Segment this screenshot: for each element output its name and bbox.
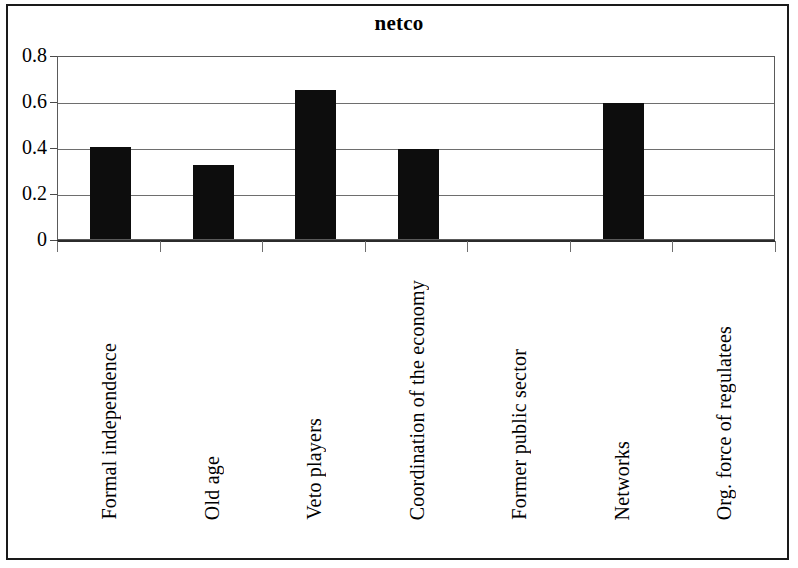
x-axis-category-label-text: Veto players xyxy=(303,418,325,520)
x-axis-tick-mark xyxy=(775,241,776,252)
x-axis-category-label: Networks xyxy=(570,258,673,520)
x-axis-tick-mark xyxy=(467,241,468,252)
x-axis-category-label-text: Formal independence xyxy=(98,343,120,520)
x-axis-category-label-text: Org. force of regulatees xyxy=(713,326,735,520)
x-axis-category-label-text: Networks xyxy=(611,441,633,520)
x-axis-category-label-text: Coordination of the economy xyxy=(406,280,428,520)
x-axis-category-label: Old age xyxy=(160,258,263,520)
x-axis-category-label: Former public sector xyxy=(467,258,570,520)
x-axis-category-label: Veto players xyxy=(262,258,365,520)
x-axis-category-label-text: Old age xyxy=(201,456,223,520)
x-axis-tick-mark xyxy=(365,241,366,252)
x-axis-tick-mark xyxy=(262,241,263,252)
x-axis-tick-mark xyxy=(57,241,58,252)
x-axis-tick-mark xyxy=(570,241,571,252)
x-axis-tick-mark xyxy=(672,241,673,252)
x-axis-category-label: Coordination of the economy xyxy=(365,258,468,520)
x-axis-category-label: Org. force of regulatees xyxy=(672,258,775,520)
x-axis-category-label: Formal independence xyxy=(57,258,160,520)
x-axis-category-label-text: Former public sector xyxy=(508,349,530,520)
x-axis-tick-mark xyxy=(160,241,161,252)
x-axis-category-labels: Formal independenceOld ageVeto playersCo… xyxy=(0,0,798,568)
